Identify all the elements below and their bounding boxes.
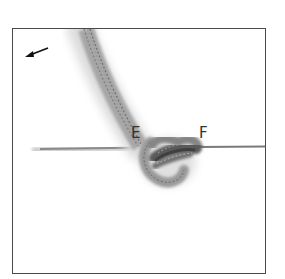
label-point-e: E — [131, 126, 140, 141]
knot — [140, 138, 198, 186]
label-point-f: F — [199, 126, 208, 141]
standing-line-right — [198, 147, 267, 148]
knot-illustration — [0, 0, 285, 279]
arrow-down-left-icon — [25, 48, 48, 57]
